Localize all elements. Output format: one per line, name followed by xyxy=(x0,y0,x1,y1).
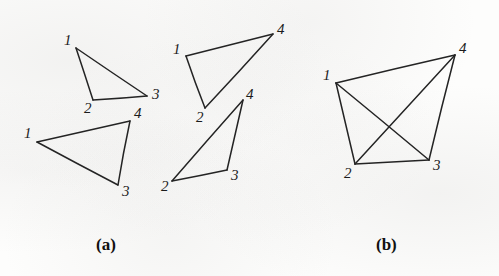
vertex-label-triangle-a3-1: 1 xyxy=(173,42,181,57)
edge-triangle-a2-4-3 xyxy=(118,121,130,185)
panel-caption-a: (a) xyxy=(96,236,116,253)
edge-triangle-a1-1-2 xyxy=(76,48,93,100)
vertex-label-complete-graph-b-3: 3 xyxy=(433,158,441,173)
graph-triangle-a3 xyxy=(186,34,273,108)
vertex-label-triangle-a2-4: 4 xyxy=(134,106,142,121)
vertex-label-triangle-a1-1: 1 xyxy=(64,33,72,48)
vertex-label-triangle-a2-3: 3 xyxy=(122,184,130,199)
vertex-label-triangle-a1-3: 3 xyxy=(152,87,160,102)
edge-complete-graph-b-3-2 xyxy=(355,160,429,164)
edge-complete-graph-b-1-4 xyxy=(336,55,455,83)
edge-triangle-a3-2-1 xyxy=(186,56,205,108)
vertex-label-complete-graph-b-4: 4 xyxy=(459,41,467,56)
edge-triangle-a3-1-4 xyxy=(186,34,273,56)
vertex-label-triangle-a4-3: 3 xyxy=(231,168,239,183)
edge-triangle-a3-4-2 xyxy=(205,34,273,108)
edge-triangle-a1-3-1 xyxy=(76,48,147,96)
vertex-label-complete-graph-b-1: 1 xyxy=(323,68,331,83)
edge-complete-graph-b-4-3 xyxy=(429,55,455,160)
panel-caption-b: (b) xyxy=(376,236,397,253)
edges-layer xyxy=(37,34,455,185)
graph-triangle-a1 xyxy=(76,48,147,100)
vertex-label-triangle-a1-2: 2 xyxy=(84,101,92,116)
vertex-label-triangle-a4-2: 2 xyxy=(161,179,169,194)
vertex-label-triangle-a3-2: 2 xyxy=(196,110,204,125)
vertex-label-triangle-a2-1: 1 xyxy=(24,126,32,141)
graph-complete-graph-b xyxy=(336,55,455,164)
edge-complete-graph-b-1-3 xyxy=(336,83,429,160)
vertex-label-triangle-a3-4: 4 xyxy=(277,22,285,37)
vertex-label-triangle-a4-4: 4 xyxy=(246,87,254,102)
edge-complete-graph-b-2-1 xyxy=(336,83,355,164)
edge-triangle-a1-2-3 xyxy=(93,96,147,100)
edge-triangle-a4-4-3 xyxy=(227,100,243,170)
graph-triangle-a2 xyxy=(37,121,130,185)
edge-triangle-a2-3-1 xyxy=(37,142,118,185)
vertex-label-complete-graph-b-2: 2 xyxy=(344,166,352,181)
edge-complete-graph-b-2-4 xyxy=(355,55,455,164)
edge-triangle-a2-1-4 xyxy=(37,121,130,142)
graph-drawing-surface xyxy=(0,0,499,276)
figure-canvas: 1231431424321432 (a) (b) xyxy=(0,0,499,276)
